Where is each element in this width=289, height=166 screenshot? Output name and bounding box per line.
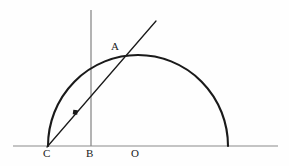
semicircle-arc bbox=[48, 55, 228, 146]
point-label-a: A bbox=[111, 41, 119, 52]
point-label-o: O bbox=[131, 148, 139, 159]
point-label-c: C bbox=[43, 148, 50, 159]
chord-line bbox=[47, 21, 156, 147]
geometry-figure: A C B O bbox=[0, 0, 289, 166]
point-label-b: B bbox=[86, 148, 93, 159]
figure-canvas bbox=[0, 0, 289, 166]
chord-marker-dot bbox=[73, 110, 78, 115]
